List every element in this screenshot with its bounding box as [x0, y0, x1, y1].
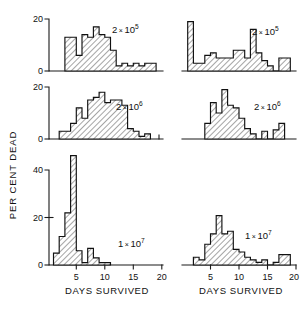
y-ticklabel-0-bottom-left: 0: [38, 260, 43, 270]
x-ticklabel-20-left: 20: [157, 272, 167, 282]
x-axis-label-left: DAYS SURVIVED: [65, 285, 149, 296]
x-ticklabel-15-left: 15: [128, 272, 138, 282]
x-ticklabel-10-left: 10: [100, 272, 110, 282]
y-axis-label: PER CENT DEAD: [7, 131, 18, 220]
panel-middle-left: 20 0 2×106: [33, 82, 163, 144]
dose-label-top-right: 2×105: [252, 25, 279, 37]
panel-bottom-right: 5 10 15 20 DAYS SURVIVED 1×107: [182, 216, 299, 296]
y-ticklabel-20-middle-left: 20: [33, 82, 43, 92]
x-ticklabel-20-right: 20: [289, 272, 299, 282]
y-ticklabel-0-top-left: 0: [38, 66, 43, 76]
dose-label-middle-right: 2×106: [254, 100, 281, 112]
x-ticklabel-10-right: 10: [234, 272, 244, 282]
panel-top-right: 2×105: [182, 22, 296, 71]
x-ticklabel-15-right: 15: [262, 272, 272, 282]
panel-top-left: 20 0 2×105: [33, 14, 163, 76]
histogram-bottom-right: [193, 216, 290, 265]
histogram-top-left: [65, 27, 156, 71]
x-ticklabel-5-left: 5: [74, 272, 79, 282]
dose-label-top-left: 2×105: [112, 23, 139, 35]
panel-bottom-left: 40 20 0 5 10 15 20 DAYS SURVIVED 1×107: [33, 156, 167, 296]
y-ticklabel-0-middle-left: 0: [38, 134, 43, 144]
histogram-bottom-left: [54, 156, 111, 265]
panel-middle-right: 2×106: [182, 90, 296, 139]
histogram-figure: PER CENT DEAD 20 0 2×105 2×105 20: [0, 0, 307, 310]
y-ticklabel-40-bottom-left: 40: [33, 165, 43, 175]
figure-container: PER CENT DEAD 20 0 2×105 2×105 20: [0, 0, 307, 310]
x-axis-label-right: DAYS SURVIVED: [199, 285, 283, 296]
histogram-middle-left: [59, 92, 150, 139]
dose-label-bottom-right: 1×107: [245, 229, 272, 241]
y-ticklabel-20-bottom-left: 20: [33, 213, 43, 223]
histogram-middle-right: [205, 90, 285, 139]
x-ticklabel-5-right: 5: [208, 272, 213, 282]
y-ticklabel-20-top-left: 20: [33, 14, 43, 24]
dose-label-middle-left: 2×106: [116, 100, 143, 112]
dose-label-bottom-left: 1×107: [118, 237, 145, 249]
